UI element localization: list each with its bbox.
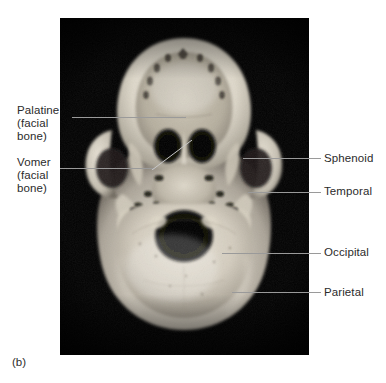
anatomy-figure: Palatine (facial bone) Vomer (facial bon…: [0, 0, 386, 383]
leader-line-sphenoid: [243, 158, 321, 159]
label-parietal: Parietal: [324, 286, 364, 299]
label-occipital: Occipital: [324, 246, 369, 259]
label-sphenoid-line1: Sphenoid: [324, 152, 373, 165]
leader-line-vomer: [60, 168, 155, 169]
label-occipital-line1: Occipital: [324, 246, 369, 259]
label-vomer-line3: bone): [17, 182, 51, 195]
label-vomer-line2: (facial: [17, 169, 51, 182]
label-palatine-line1: Palatine: [17, 104, 59, 117]
label-palatine-line2: (facial: [17, 117, 59, 130]
label-palatine: Palatine (facial bone): [17, 104, 59, 144]
label-sphenoid: Sphenoid: [324, 152, 373, 165]
skull-inferior-view-illustration: [60, 18, 309, 355]
leader-line-temporal: [248, 192, 321, 193]
leader-line-palatine: [72, 117, 186, 118]
label-palatine-line3: bone): [17, 130, 59, 143]
label-vomer-line1: Vomer: [17, 156, 51, 169]
leader-line-parietal: [232, 292, 321, 293]
label-temporal-line1: Temporal: [324, 185, 372, 198]
skull-photograph: [60, 18, 309, 355]
figure-caption: (b): [12, 356, 26, 368]
label-vomer: Vomer (facial bone): [17, 156, 51, 196]
label-temporal: Temporal: [324, 185, 372, 198]
leader-line-occipital: [222, 253, 321, 254]
label-parietal-line1: Parietal: [324, 286, 364, 299]
